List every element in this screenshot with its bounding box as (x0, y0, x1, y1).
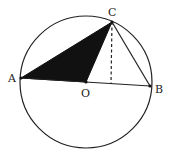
dashed-altitude-ch (111, 22, 112, 84)
label-c: C (108, 6, 116, 19)
shaded-triangle-aoc (21, 22, 112, 82)
label-o: O (81, 87, 90, 100)
point-c (110, 20, 113, 23)
label-b: B (155, 83, 163, 96)
geometry-diagram: A O B C (0, 0, 170, 158)
label-a: A (7, 72, 17, 85)
point-o (84, 80, 87, 83)
point-a (19, 76, 22, 79)
segment-cb (112, 22, 150, 86)
point-b (148, 84, 151, 87)
